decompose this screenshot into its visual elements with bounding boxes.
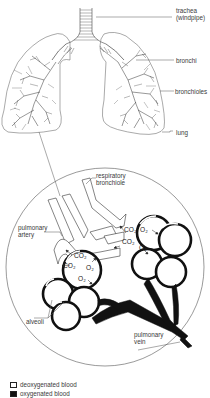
gas-o2-3: O₂ [86,264,94,271]
gas-co2-4: CO₂ [63,262,75,269]
swatch-deoxygenated-icon [10,382,17,388]
label-trachea: trachea [176,7,197,14]
legend-label-oxygenated: oxygenated blood [20,390,70,397]
gas-co2-2: CO₂ [122,238,134,245]
gas-co2-1: CO₂ [124,226,136,233]
left-lung-outline [2,34,70,134]
gas-o2-1: O₂ [140,226,148,233]
label-pulmonary-artery-1: pulmonary [18,224,47,231]
right-lung-outline [100,32,165,134]
gas-o2-2: O₂ [139,244,147,251]
label-bronchioles: bronchioles [175,88,207,95]
gas-o2-4: O₂ [78,275,86,282]
legend-item-deoxygenated: deoxygenated blood [10,381,77,388]
gas-co2-3: CO₂ [74,252,86,259]
label-windpipe: (windpipe) [176,14,205,21]
leader-lines [39,17,174,196]
label-pulmonary-vein-1: pulmonary [134,331,163,338]
bronchiole-tree-left [10,56,56,130]
swatch-oxygenated-icon [10,391,17,397]
label-lung: lung [176,129,188,136]
label-pulmonary-vein-2: vein [134,338,146,345]
bronchiole-tree-right [114,50,160,130]
legend-item-oxygenated: oxygenated blood [10,390,70,397]
label-respiratory: respiratory [96,172,126,179]
label-bronchi: bronchi [176,57,197,64]
label-bronchiole: bronchiole [96,179,125,186]
legend-label-deoxygenated: deoxygenated blood [20,381,77,388]
label-pulmonary-artery-2: artery [18,231,34,238]
label-alveoli: alveoli [26,318,44,325]
trachea [52,8,124,64]
respiratory-bronchiole [48,178,126,244]
